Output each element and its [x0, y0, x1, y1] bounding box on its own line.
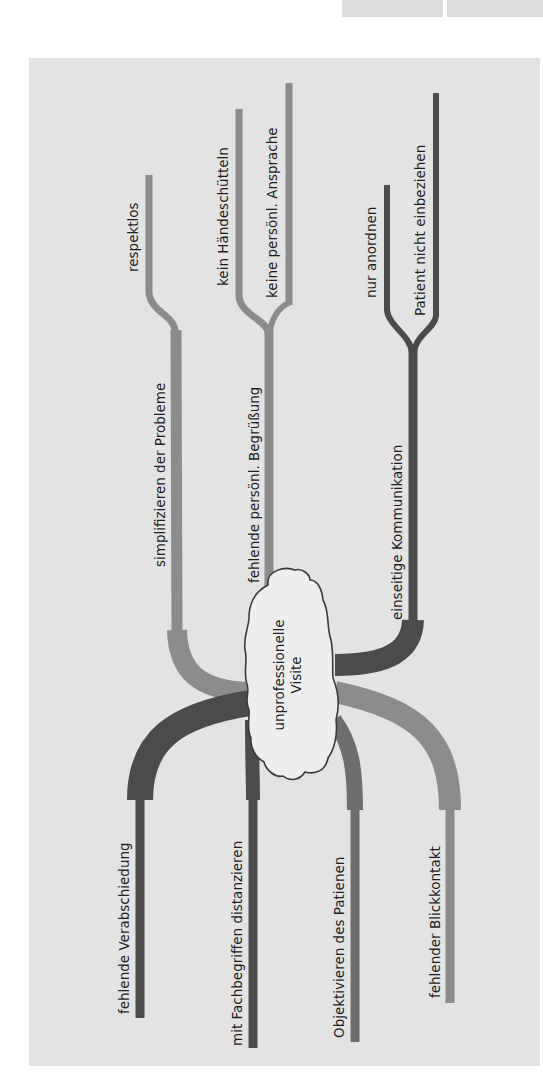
central-topic-line1: unprofessionelle — [271, 620, 287, 731]
label-simplifizieren: simplifizieren der Probleme — [152, 383, 168, 567]
label-patient-einbeziehen: Patient nicht einbeziehen — [412, 145, 428, 316]
branch-fachbegriffen — [252, 720, 253, 1048]
label-haendeschuetteln: kein Händeschütteln — [215, 147, 231, 286]
label-blickkontakt: fehlender Blickkontakt — [427, 846, 443, 998]
mind-map-diagram: unprofessionelle Visite simplifizieren d… — [0, 0, 543, 1092]
label-respektlos: respektlos — [125, 202, 141, 272]
label-objektivieren: Objektivieren des Patienen — [331, 857, 347, 1038]
label-nur-anordnen: nur anordnen — [363, 207, 379, 298]
central-topic-line2: Visite — [288, 656, 304, 693]
label-verabschiedung: fehlende Verabschiedung — [116, 842, 132, 1014]
label-kommunikation: einseitige Kommunikation — [389, 445, 405, 620]
label-fachbegriffen: mit Fachbegriffen distanzieren — [229, 841, 245, 1046]
label-persoenl-ansprache: keine persönl. Ansprache — [264, 127, 280, 298]
label-begruessung: fehlende persönl. Begrüßung — [246, 387, 262, 583]
